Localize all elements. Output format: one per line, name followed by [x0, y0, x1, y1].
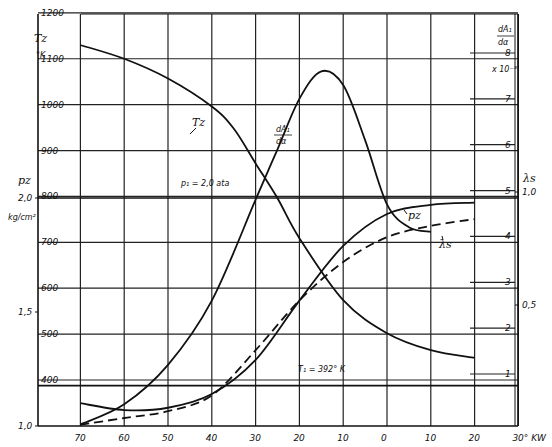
x-tick-label: 0 — [381, 433, 387, 443]
y-tick-label-work: 5 — [505, 186, 511, 196]
y-tick-label-temperature: 600 — [41, 283, 58, 293]
left-pressure-tick-labels: 1,01,52,0 — [18, 193, 38, 431]
left-axis-p-label: pz — [18, 174, 31, 187]
x-tick-label: 70 — [74, 433, 86, 443]
ref-line-T1-label: T₁ = 392° K — [298, 365, 346, 374]
y-tick-label-lambda: 1,0 — [522, 187, 537, 197]
x-tick-labels: 706050403020100102030° KW — [74, 433, 547, 443]
y-tick-label-pressure: 1,0 — [18, 421, 33, 431]
series-label-pz: pz — [408, 209, 421, 222]
y-tick-label-temperature: 900 — [41, 146, 58, 156]
x-tick-label: 60 — [118, 433, 130, 443]
x-tick-label: 30 — [250, 433, 262, 443]
series-label-dA-numerator: dA₁ — [276, 125, 290, 134]
x-tick-label: 20 — [293, 433, 305, 443]
leader-pz — [404, 210, 407, 214]
right-axis-dA-denominator: dα — [498, 38, 509, 47]
right-axis-dA-unit: x 10⁻³ — [491, 65, 517, 74]
right-axis-lambda-label: λs — [522, 172, 536, 185]
series-line-tz — [80, 45, 474, 358]
y-tick-label-lambda: 0,5 — [522, 300, 537, 310]
y-tick-label-work: 1 — [505, 369, 511, 379]
y-tick-label-temperature: 1000 — [41, 100, 64, 110]
series-label-Tz: Tz — [192, 116, 205, 129]
ref-line-p1-label: p₁ = 2,0 ata — [180, 179, 229, 188]
y-tick-label-pressure: 2,0 — [18, 193, 33, 203]
y-tick-label-temperature: 800 — [41, 191, 58, 201]
x-tick-label: 30° KW — [512, 433, 547, 443]
axes-frame — [38, 14, 518, 426]
x-tick-label: 50 — [162, 433, 174, 443]
y-tick-label-work: 2 — [505, 323, 511, 333]
series-curves — [80, 45, 474, 425]
y-tick-label-work: 4 — [505, 231, 511, 241]
x-tick-label: 10 — [337, 433, 349, 443]
y-tick-label-work: 8 — [505, 48, 511, 58]
y-tick-label-temperature: 500 — [41, 329, 58, 339]
left-axis-p-unit: kg/cm² — [8, 213, 37, 222]
x-tick-label: 20 — [469, 433, 481, 443]
left-axis-T-label: Tz — [34, 32, 47, 45]
series-label-dA-denominator: dα — [276, 137, 287, 146]
y-tick-label-pressure: 1,5 — [18, 307, 33, 317]
reference-lines — [38, 198, 518, 386]
series-label-lambda: λs — [438, 238, 452, 251]
left-axis-T-unit: °K — [36, 51, 46, 60]
y-tick-label-work: 7 — [505, 94, 511, 104]
y-tick-label-temperature: 1200 — [41, 8, 64, 18]
right-axis-dA-numerator: dA₁ — [498, 25, 512, 34]
y-tick-label-work: 3 — [505, 277, 511, 287]
y-tick-label-work: 6 — [505, 140, 511, 150]
y-tick-label-temperature: 700 — [41, 237, 58, 247]
x-tick-label: 40 — [206, 433, 218, 443]
series-line-pz — [80, 203, 474, 411]
x-tick-label: 10 — [425, 433, 437, 443]
axis-and-series-labels: Tz °K pz kg/cm² dA₁ dα x 10⁻³ λs p₁ = 2,… — [8, 25, 536, 374]
right-work-tick-labels: 12345678 — [470, 48, 515, 379]
chart: 706050403020100102030° KW 40050060070080… — [0, 0, 552, 447]
y-tick-label-temperature: 400 — [41, 375, 58, 385]
